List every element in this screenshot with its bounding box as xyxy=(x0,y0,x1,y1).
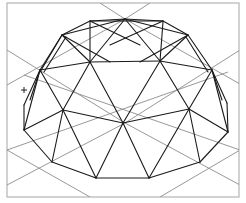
guide-line xyxy=(100,3,125,19)
dome-edge xyxy=(90,61,160,62)
construction-guide-lines xyxy=(7,3,240,197)
dome-edge xyxy=(90,62,123,123)
guide-line xyxy=(125,123,240,185)
dome-edge xyxy=(62,21,90,35)
dome-edge xyxy=(110,21,163,45)
dome-edge xyxy=(40,35,62,72)
dome-edge xyxy=(63,62,90,110)
dome-canvas: Geodesic dome wireframe xyxy=(0,0,246,203)
dome-edge xyxy=(189,109,228,132)
dome-edge xyxy=(200,132,228,162)
dome-edge xyxy=(123,123,149,178)
dome-edge xyxy=(189,70,212,109)
dome-edge xyxy=(30,70,40,100)
dome-edge xyxy=(24,130,52,162)
dome-edge xyxy=(24,110,63,130)
guide-line xyxy=(125,3,150,19)
guide-line xyxy=(160,150,240,197)
dome-edge xyxy=(52,110,63,162)
drawing-viewport: Geodesic dome wireframe xyxy=(0,0,246,203)
dome-edge xyxy=(188,35,212,70)
guide-line xyxy=(7,150,90,197)
dome-edge xyxy=(123,61,160,123)
dome-wireframe-edges xyxy=(24,19,228,178)
viewport-frame xyxy=(7,3,239,197)
dome-edge xyxy=(186,37,208,72)
crosshair-cursor-icon xyxy=(21,87,27,93)
dome-edge xyxy=(40,70,63,110)
dome-edge xyxy=(163,21,188,35)
